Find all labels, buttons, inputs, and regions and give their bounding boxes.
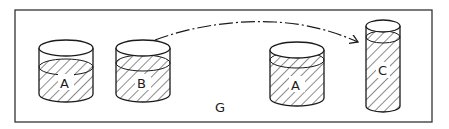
- transfer-arrow: [155, 22, 358, 42]
- frame-label: G: [215, 100, 225, 115]
- cylinder-c: C: [366, 20, 400, 112]
- label-b: B: [137, 76, 146, 91]
- cylinder-a2: A: [270, 42, 324, 106]
- label-a1: A: [60, 76, 69, 91]
- label-a2: A: [291, 78, 300, 93]
- label-c: C: [378, 63, 387, 78]
- diagram-canvas: A B A C G: [0, 0, 449, 129]
- cylinder-a1: A: [39, 40, 93, 102]
- cylinder-b: B: [116, 40, 170, 102]
